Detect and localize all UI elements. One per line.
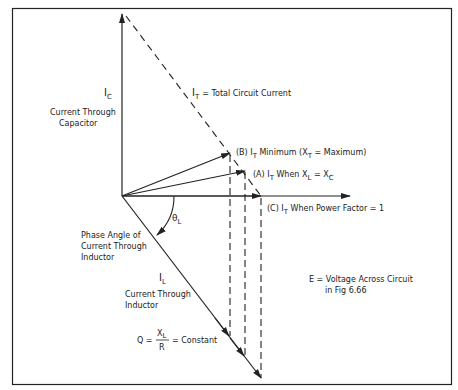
il-desc-line2: Inductor (125, 301, 159, 310)
svg-text:= Constant: = Constant (172, 336, 217, 345)
svg-text:XL: XL (157, 329, 166, 340)
theta-desc-line1: Phase Angle of (81, 231, 141, 240)
il-desc-line1: Current Through (125, 290, 191, 299)
theta-desc-line3: Inductor (81, 253, 115, 262)
voltage-note-line2: in Fig 6.66 (325, 286, 367, 295)
label-a-resonance: (A) IT When XL = XC (253, 170, 334, 182)
il-arrow-a (230, 338, 244, 356)
il-arrow-b (215, 318, 229, 336)
ic-desc-line2: Capacitor (59, 119, 98, 128)
q-formula: Q = XL R = Constant (137, 329, 217, 352)
ic-symbol: IC (104, 87, 112, 101)
svg-text:R: R (159, 343, 165, 352)
voltage-note-line1: E = Voltage Across Circuit (309, 275, 413, 284)
theta-symbol: θL (172, 213, 182, 226)
il-symbol: IL (159, 272, 166, 286)
label-c-unity-pf: (C) IT When Power Factor = 1 (267, 204, 384, 216)
it-phasor-b-arrow (122, 153, 230, 196)
phasor-diagram: IC Current Through Capacitor IT= Total C… (0, 0, 458, 390)
svg-text:Q =: Q = (137, 336, 153, 345)
label-b-it-minimum: (B) IT Minimum (XT = Maximum) (236, 148, 366, 160)
theta-desc-line2: Current Through (81, 242, 147, 251)
it-phasor-a-arrow (122, 171, 245, 196)
ic-desc-line1: Current Through (50, 108, 116, 117)
it-locus-dashed (126, 16, 261, 196)
it-total-label: IT= Total Circuit Current (192, 87, 291, 101)
